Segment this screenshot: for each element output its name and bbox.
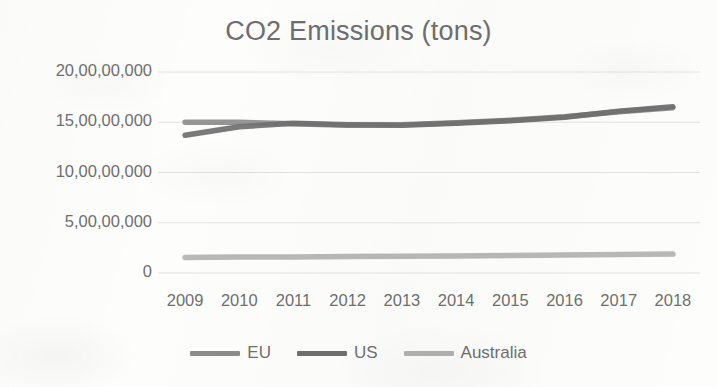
chart-page: CO2 Emissions (tons) 20,00,00,00015,00,0…	[0, 0, 717, 387]
legend-item-us[interactable]: US	[297, 343, 378, 363]
legend-swatch-icon	[190, 351, 240, 356]
legend-item-label: US	[354, 343, 378, 363]
y-axis-tick-label: 10,00,00,000	[12, 162, 152, 181]
x-axis-tick-label: 2012	[321, 291, 375, 315]
x-axis-tick-label: 2011	[266, 291, 320, 315]
y-axis: 20,00,00,00015,00,00,00010,00,00,0005,00…	[0, 0, 152, 387]
y-axis-tick-label: 0	[12, 262, 152, 281]
series-line-australia	[185, 254, 673, 257]
legend-item-label: EU	[247, 343, 271, 363]
x-axis-tick-label: 2016	[537, 291, 591, 315]
x-axis-tick-label: 2013	[375, 291, 429, 315]
legend-item-label: Australia	[461, 343, 527, 363]
x-axis-tick-label: 2017	[592, 291, 646, 315]
gridlines	[158, 72, 700, 273]
y-axis-tick-label: 20,00,00,000	[12, 61, 152, 80]
x-axis-tick-label: 2018	[646, 291, 700, 315]
legend-item-eu[interactable]: EU	[190, 343, 271, 363]
series-lines	[185, 107, 673, 258]
chart-legend: EUUSAustralia	[0, 343, 717, 363]
x-axis-tick-label: 2014	[429, 291, 483, 315]
y-axis-tick-label: 5,00,00,000	[12, 212, 152, 231]
legend-swatch-icon	[404, 351, 454, 356]
x-axis: 2009201020112012201320142015201620172018	[158, 291, 700, 315]
x-axis-tick-label: 2009	[158, 291, 212, 315]
x-axis-tick-label: 2015	[483, 291, 537, 315]
x-axis-tick-label: 2010	[212, 291, 266, 315]
legend-swatch-icon	[297, 351, 347, 356]
y-axis-tick-label: 15,00,00,000	[12, 111, 152, 130]
legend-item-australia[interactable]: Australia	[404, 343, 527, 363]
